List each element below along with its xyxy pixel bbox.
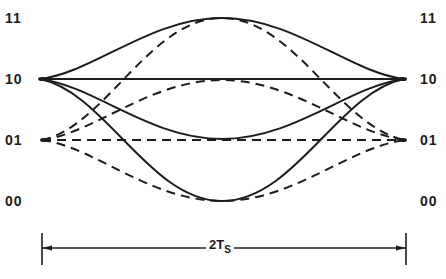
node-01-right [399,138,407,142]
solid-trajectory-10-11-10 [40,18,404,79]
node-10-right [399,77,407,81]
dimension-label-subscript: S [224,244,231,255]
dimension-left-arrow [42,246,52,251]
dimension-right-arrow [396,246,406,251]
dimension-label-main: 2T [209,237,224,252]
node-01-left [40,138,48,142]
node-10-left [38,77,46,81]
dimension-label: 2TS [206,238,234,253]
dashed-trajectory-01-00-01 [42,140,405,201]
